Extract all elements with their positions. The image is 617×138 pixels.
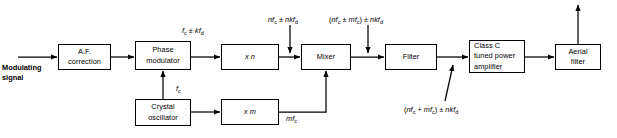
label-modulating-signal: Modulating signal bbox=[2, 63, 41, 82]
block-multiplier-m[interactable]: x m bbox=[221, 99, 279, 125]
block-class-c-amplifier[interactable]: Class C tuned power amplifier bbox=[469, 40, 525, 73]
block-aerial-filter-label: Aerial filter bbox=[568, 47, 587, 67]
block-class-c-amplifier-label: Class C tuned power amplifier bbox=[474, 41, 515, 72]
label-phase-modulator-output: fc ± kfd bbox=[182, 26, 204, 36]
label-mixer-output: (nfc ± mfc) ± nkfd bbox=[329, 15, 383, 25]
block-multiplier-n[interactable]: x n bbox=[221, 44, 279, 70]
block-af-correction-label: A.F. correction bbox=[68, 47, 101, 67]
label-multiplier-n-output: nfc ± nkfd bbox=[268, 15, 298, 25]
label-filter-output: (nfc + mfc) ± nkfd bbox=[404, 105, 458, 115]
block-af-correction[interactable]: A.F. correction bbox=[58, 44, 111, 70]
block-crystal-oscillator[interactable]: Crystal oscillator bbox=[135, 99, 191, 126]
block-multiplier-n-label: x n bbox=[245, 52, 255, 62]
wire-m-to-mixer bbox=[279, 71, 326, 112]
fm-transmitter-block-diagram: A.F. correction Phase modulator x n Mixe… bbox=[0, 0, 617, 138]
leader-filter-output bbox=[445, 65, 453, 101]
block-filter-label: Filter bbox=[403, 52, 420, 62]
block-mixer[interactable]: Mixer bbox=[301, 44, 351, 70]
block-phase-modulator-label: Phase modulator bbox=[146, 45, 179, 65]
block-crystal-oscillator-label: Crystal oscillator bbox=[148, 102, 178, 122]
block-mixer-label: Mixer bbox=[317, 52, 335, 62]
block-filter[interactable]: Filter bbox=[385, 44, 437, 70]
label-crystal-frequency: fc bbox=[176, 84, 181, 94]
block-phase-modulator[interactable]: Phase modulator bbox=[135, 41, 191, 70]
block-aerial-filter[interactable]: Aerial filter bbox=[555, 44, 601, 70]
block-multiplier-m-label: x m bbox=[244, 107, 256, 117]
label-multiplier-m-output: mfc bbox=[286, 114, 297, 124]
